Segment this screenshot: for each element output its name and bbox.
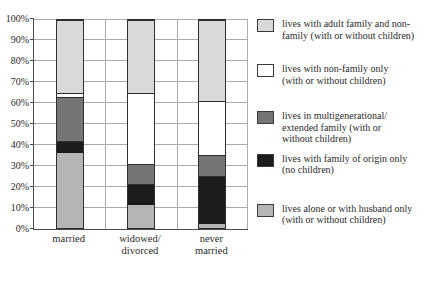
y-axis-label-40: 40% bbox=[0, 139, 29, 151]
legend-item-3: lives in multigenerational/ extended fam… bbox=[257, 110, 443, 145]
y-tick-90 bbox=[30, 39, 34, 40]
plot-area bbox=[33, 19, 248, 230]
v-gridline-3 bbox=[247, 19, 248, 229]
legend-item-5: lives alone or with husband only (with o… bbox=[257, 203, 443, 226]
segment-married-lives-alone-or-with-husband-on bbox=[57, 153, 83, 228]
legend-label-2: lives with non-family only (with or with… bbox=[282, 63, 388, 86]
legend-swatch-4 bbox=[257, 154, 274, 167]
y-tick-0 bbox=[30, 228, 34, 229]
y-tick-100 bbox=[30, 18, 34, 19]
y-axis-label-90: 90% bbox=[0, 34, 29, 46]
y-axis-label-100: 100% bbox=[0, 13, 29, 25]
segment-never-married-lives-in-multigenerational-ext bbox=[199, 155, 225, 176]
y-axis-label-20: 20% bbox=[0, 181, 29, 193]
y-axis-label-60: 60% bbox=[0, 97, 29, 109]
legend-item-2: lives with non-family only (with or with… bbox=[257, 63, 443, 86]
y-tick-30 bbox=[30, 165, 34, 166]
segment-married-lives-with-family-of-origin-on bbox=[57, 141, 83, 153]
y-tick-10 bbox=[30, 207, 34, 208]
y-tick-80 bbox=[30, 60, 34, 61]
y-tick-20 bbox=[30, 186, 34, 187]
legend-swatch-2 bbox=[257, 64, 274, 77]
legend-swatch-1 bbox=[257, 19, 274, 32]
y-axis-label-70: 70% bbox=[0, 76, 29, 88]
y-tick-50 bbox=[30, 123, 34, 124]
segment-widowed-divorced-lives-with-family-of-origin-on bbox=[128, 184, 154, 205]
legend-label-4: lives with family of origin only (no chi… bbox=[282, 153, 407, 176]
y-axis-label-80: 80% bbox=[0, 55, 29, 67]
v-gridline-1 bbox=[105, 19, 106, 229]
legend-label-1: lives with adult family and non- family … bbox=[282, 18, 414, 41]
category-label-married: married bbox=[33, 233, 104, 245]
legend-item-4: lives with family of origin only (no chi… bbox=[257, 153, 443, 176]
y-tick-60 bbox=[30, 102, 34, 103]
legend-swatch-5 bbox=[257, 204, 274, 217]
category-label-never-married: never married bbox=[176, 233, 247, 256]
legend-label-3: lives in multigenerational/ extended fam… bbox=[282, 110, 387, 145]
chart-figure: lives with adult family and non- family … bbox=[0, 0, 446, 281]
segment-never-married-lives-alone-or-with-husband-on bbox=[199, 224, 225, 228]
segment-widowed-divorced-lives-with-non-family-only-wit bbox=[128, 93, 154, 164]
segment-widowed-divorced-lives-in-multigenerational-ext bbox=[128, 164, 154, 185]
legend: lives with adult family and non- family … bbox=[257, 18, 443, 226]
segment-widowed-divorced-lives-with-adult-family-and-no bbox=[128, 20, 154, 93]
y-axis-label-30: 30% bbox=[0, 160, 29, 172]
legend-swatch-3 bbox=[257, 111, 274, 124]
segment-married-lives-in-multigenerational-ext bbox=[57, 97, 83, 141]
y-tick-40 bbox=[30, 144, 34, 145]
category-label-widowed-divorced: widowed/ divorced bbox=[104, 233, 175, 256]
segment-never-married-lives-with-non-family-only-wit bbox=[199, 101, 225, 155]
bar-married bbox=[56, 19, 84, 229]
v-gridline-2 bbox=[177, 19, 178, 229]
legend-label-5: lives alone or with husband only (with o… bbox=[282, 203, 412, 226]
segment-married-lives-with-adult-family-and-no bbox=[57, 20, 83, 93]
bar-never-married bbox=[198, 19, 226, 229]
y-axis-label-0: 0% bbox=[0, 223, 29, 235]
legend-item-1: lives with adult family and non- family … bbox=[257, 18, 443, 41]
segment-never-married-lives-with-family-of-origin-on bbox=[199, 176, 225, 224]
segment-never-married-lives-with-adult-family-and-no bbox=[199, 20, 225, 101]
segment-widowed-divorced-lives-alone-or-with-husband-on bbox=[128, 205, 154, 228]
y-tick-70 bbox=[30, 81, 34, 82]
y-axis-label-50: 50% bbox=[0, 118, 29, 130]
y-axis-label-10: 10% bbox=[0, 202, 29, 214]
bar-widowed-divorced bbox=[127, 19, 155, 229]
